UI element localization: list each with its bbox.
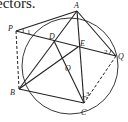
angle-2-label: 2 — [104, 48, 108, 56]
label-P: P — [7, 24, 13, 33]
label-Q: Q — [118, 52, 124, 61]
label-B: B — [10, 88, 15, 97]
solid-segments — [16, 11, 116, 103]
label-A: A — [73, 1, 79, 10]
label-D: D — [48, 32, 55, 41]
geometry-diagram: A P D E Q O B C 1 2 3 — [0, 0, 128, 122]
angle-3-label: 3 — [86, 90, 90, 98]
angle-1-label: 1 — [27, 28, 31, 36]
label-E: E — [79, 39, 85, 48]
label-O: O — [65, 64, 71, 73]
label-C: C — [81, 108, 87, 117]
